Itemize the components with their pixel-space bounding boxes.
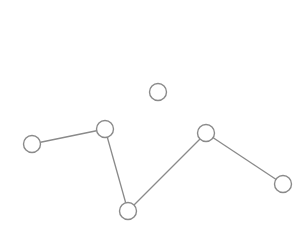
node-n3 [120,203,137,220]
node-n1 [24,136,41,153]
node-n5 [275,176,292,193]
edge-n2-n3 [105,129,128,211]
nodes-layer [24,84,292,220]
edge-n1-n2 [32,129,105,144]
edge-n3-n4 [128,133,206,211]
node-n2 [97,121,114,138]
graph-diagram [0,0,306,237]
node-n6 [150,84,167,101]
node-n4 [198,125,215,142]
edges-layer [32,129,283,211]
edge-n4-n5 [206,133,283,184]
